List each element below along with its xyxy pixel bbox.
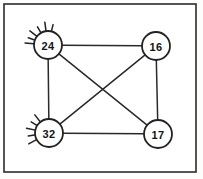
edge-24-16 (62, 45, 142, 46)
node-16[interactable]: 16 (142, 32, 170, 60)
diagram-canvas: 24163217 (0, 0, 203, 179)
node-32[interactable]: 32 (35, 119, 63, 147)
node-17[interactable]: 17 (144, 120, 172, 148)
node-label-16: 16 (150, 41, 163, 53)
edge-32-17 (63, 133, 144, 134)
node-label-24: 24 (42, 40, 55, 52)
node-label-32: 32 (43, 128, 56, 140)
network-diagram-svg: 24163217 (0, 0, 203, 179)
node-24[interactable]: 24 (34, 31, 62, 59)
node-label-17: 17 (152, 129, 165, 141)
edge-24-32 (48, 59, 49, 119)
